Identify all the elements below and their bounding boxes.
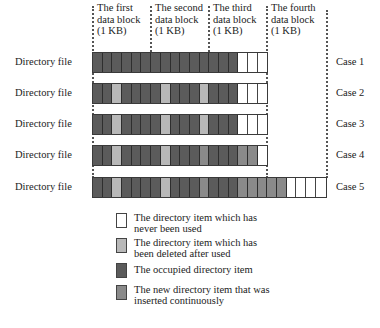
legend-text: The directory item which has [134, 212, 324, 223]
occupied-cell [103, 178, 113, 197]
occupied-cell [103, 53, 113, 72]
deleted-cell [112, 146, 122, 165]
header-text: (1 KB) [97, 25, 140, 37]
header-text: (1 KB) [213, 25, 256, 37]
new-swatch-icon [116, 285, 127, 300]
occupied-cell [219, 146, 229, 165]
occupied-cell [161, 53, 171, 72]
unused-cell [287, 178, 297, 197]
deleted-cell [161, 115, 171, 134]
header-text: data block [97, 14, 140, 26]
occupied-cell [209, 53, 219, 72]
unused-cell [238, 53, 248, 72]
unused-cell [248, 84, 258, 103]
new-cell [267, 178, 277, 197]
deleted-cell [112, 115, 122, 134]
unused-cell [238, 115, 248, 134]
occupied-cell [171, 115, 181, 134]
row-label: Directory file [15, 149, 72, 160]
directory-bar-case-1 [92, 52, 268, 73]
occupied-cell [171, 146, 181, 165]
case-label: Case 4 [336, 149, 364, 160]
unused-cell [248, 53, 258, 72]
row-label: Directory file [15, 118, 72, 129]
deleted-cell [200, 84, 210, 103]
unused-cell [316, 178, 326, 197]
occupied-cell [180, 178, 190, 197]
occupied-cell [93, 146, 103, 165]
occupied-cell [229, 84, 239, 103]
legend-item-deleted: The directory item which has been delete… [116, 237, 324, 259]
deleted-cell [200, 115, 210, 134]
new-cell [200, 146, 210, 165]
occupied-cell [151, 115, 161, 134]
header-text: (1 KB) [155, 25, 203, 37]
deleted-cell [161, 146, 171, 165]
case-label: Case 5 [336, 181, 364, 192]
occupied-cell [171, 53, 181, 72]
occupied-cell [122, 84, 132, 103]
occupied-cell [209, 84, 219, 103]
case-label: Case 2 [336, 87, 364, 98]
case-label: Case 3 [336, 118, 364, 129]
occupied-cell [151, 178, 161, 197]
directory-bar-case-2 [92, 83, 268, 104]
occupied-cell [141, 146, 151, 165]
occupied-cell [132, 178, 142, 197]
new-cell [238, 146, 248, 165]
row-label: Directory file [15, 56, 72, 67]
occupied-cell [171, 84, 181, 103]
occupied-cell [229, 53, 239, 72]
occupied-cell [190, 146, 200, 165]
legend-text: never been used [134, 223, 324, 234]
unused-cell [258, 53, 268, 72]
case-label: Case 1 [336, 56, 364, 67]
header-text: data block [271, 14, 316, 26]
occupied-cell [219, 84, 229, 103]
occupied-cell [219, 53, 229, 72]
deleted-cell [161, 84, 171, 103]
occupied-cell [190, 84, 200, 103]
legend-text: The directory item which has [134, 237, 324, 248]
occupied-cell [200, 53, 210, 72]
legend: The directory item which has never been … [116, 212, 324, 309]
occupied-cell [132, 115, 142, 134]
block-header-2: The second data block (1 KB) [151, 2, 203, 37]
header-text: data block [213, 14, 256, 26]
header-text: The first [97, 2, 140, 14]
occupied-cell [219, 178, 229, 197]
unused-cell [258, 84, 268, 103]
occupied-cell [122, 146, 132, 165]
unused-cell [248, 115, 258, 134]
legend-item-unused: The directory item which has never been … [116, 212, 324, 234]
unused-cell [258, 146, 268, 165]
new-cell [238, 178, 248, 197]
occupied-cell [122, 53, 132, 72]
occupied-cell [112, 53, 122, 72]
occupied-cell [229, 146, 239, 165]
occupied-cell [151, 53, 161, 72]
unused-cell [238, 84, 248, 103]
header-text: data block [155, 14, 203, 26]
occupied-cell [132, 146, 142, 165]
occupied-cell [180, 115, 190, 134]
block-divider [208, 6, 210, 52]
legend-text: The occupied directory item [134, 264, 324, 275]
legend-text: been deleted after used [134, 248, 324, 259]
occupied-cell [103, 84, 113, 103]
occupied-cell [141, 84, 151, 103]
block-divider [326, 10, 328, 178]
new-cell [248, 146, 258, 165]
directory-bar-case-4 [92, 145, 268, 166]
deleted-cell [112, 178, 122, 197]
new-cell [258, 178, 268, 197]
new-cell [277, 178, 287, 197]
row-label: Directory file [15, 181, 72, 192]
occupied-cell [209, 146, 219, 165]
header-text: The third [213, 2, 256, 14]
occupied-cell [171, 178, 181, 197]
header-text: The fourth [271, 2, 316, 14]
occupied-cell [93, 115, 103, 134]
occupied-swatch-icon [116, 263, 127, 278]
occupied-cell [132, 84, 142, 103]
